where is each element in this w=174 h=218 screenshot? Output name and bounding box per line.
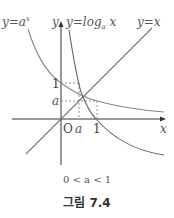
exponential-curve	[28, 29, 164, 112]
identity-label: y=x	[136, 15, 161, 29]
figure-caption: 그림 7.4	[0, 193, 174, 210]
exp-curve-label: y=ax	[1, 15, 30, 29]
y-axis-label: y	[51, 15, 59, 29]
logarithm-curve	[69, 30, 164, 155]
graph: y=ax y y=loga x y=x x O a 1 1 a	[0, 0, 174, 170]
tick-a-x-label: a	[75, 122, 82, 136]
tick-1-x-label: 1	[93, 122, 101, 136]
identity-line	[26, 28, 152, 154]
y-axis-arrow-icon	[59, 21, 64, 27]
condition-text: 0 < a < 1	[0, 174, 174, 185]
origin-label: O	[63, 122, 73, 136]
log-curve-label: y=loga x	[65, 15, 117, 31]
x-axis-arrow-icon	[160, 117, 166, 122]
tick-a-y-label: a	[52, 94, 59, 108]
x-axis-label: x	[160, 122, 167, 136]
tick-1-y-label: 1	[52, 77, 60, 91]
